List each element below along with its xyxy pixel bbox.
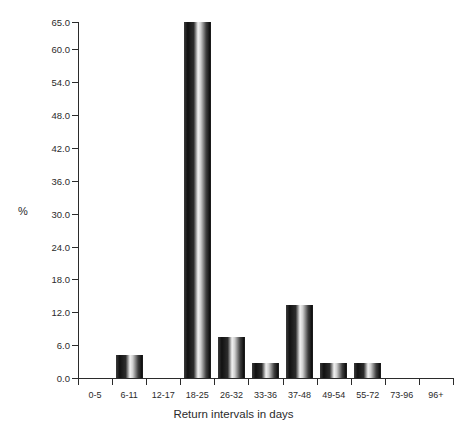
plot-area (0, 0, 467, 432)
x-axis-tick-label: 18-25 (186, 390, 209, 400)
x-axis-tick-label: 55-72 (356, 390, 379, 400)
x-axis-title: Return intervals in days (0, 408, 467, 420)
bar (354, 363, 381, 378)
x-axis-tick-label: 12-17 (152, 390, 175, 400)
x-axis-tick-label: 33-36 (254, 390, 277, 400)
x-axis-tick (248, 378, 249, 385)
x-axis-tick (146, 378, 147, 385)
x-axis-tick (214, 378, 215, 385)
bar-chart: % 0.06.012.018.024.030.036.042.048.054.0… (0, 0, 467, 432)
bar (286, 305, 313, 378)
bar (320, 363, 347, 378)
x-axis-tick (180, 378, 181, 385)
x-axis-tick-label: 96+ (428, 390, 443, 400)
x-axis-line (78, 378, 453, 379)
x-axis-tick-label: 26-32 (220, 390, 243, 400)
x-axis-tick (453, 378, 454, 385)
x-axis-tick (112, 378, 113, 385)
x-axis-tick-label: 49-54 (322, 390, 345, 400)
x-axis-tick (351, 378, 352, 385)
x-axis-tick (317, 378, 318, 385)
x-axis-tick (283, 378, 284, 385)
bar (252, 363, 279, 378)
x-axis-tick (419, 378, 420, 385)
x-axis-tick-label: 0-5 (89, 390, 102, 400)
x-axis-tick (78, 378, 79, 385)
bar (184, 22, 211, 378)
x-axis-tick (385, 378, 386, 385)
bar (116, 355, 143, 378)
x-axis-tick-label: 73-96 (390, 390, 413, 400)
x-axis-tick-label: 6-11 (120, 390, 137, 400)
x-axis-tick-label: 37-48 (288, 390, 311, 400)
bar (218, 337, 245, 378)
